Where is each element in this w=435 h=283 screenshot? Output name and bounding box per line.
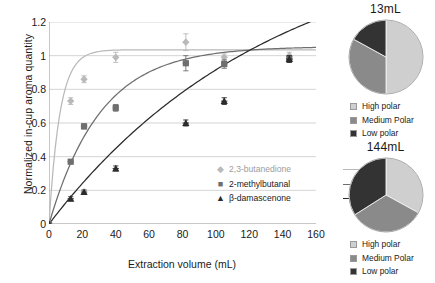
pie-legend-swatch	[350, 103, 357, 110]
x-tick-label: 0	[34, 228, 64, 240]
x-tick-label: 20	[67, 228, 97, 240]
pie-slices	[348, 158, 422, 232]
pie-chart	[348, 157, 424, 233]
plot-area: ◆2,3-butanedione■2-methylbutanal▲β-damas…	[49, 22, 316, 224]
pie-legend-item: Low polar	[350, 265, 435, 279]
pie-legend-label: Low polar	[362, 266, 398, 276]
legend-label: 2-methylbutanal	[226, 177, 290, 192]
pie-panel-13ml: 13mL High polarMedium PolarLow polar	[336, 0, 435, 141]
pie-legend-swatch	[350, 268, 357, 275]
pie-title: 13mL	[336, 0, 435, 17]
pie-legend-label: Medium Polar	[362, 115, 414, 125]
x-tick-label: 80	[168, 228, 198, 240]
y-tick-label: 0.8	[18, 84, 46, 94]
x-tick-label: 160	[301, 228, 331, 240]
x-tick-label: 120	[234, 228, 264, 240]
x-axis-label: Extraction volume (mL)	[48, 258, 316, 270]
pie-slices	[349, 20, 423, 94]
x-tick-label: 140	[268, 228, 298, 240]
pie-legend-item: High polar	[350, 100, 435, 114]
legend-label: β-damascenone	[226, 191, 291, 206]
y-tick-label: 1	[18, 51, 46, 61]
x-axis-ticks: 020406080100120140160	[0, 224, 332, 244]
pie-legend-item: High polar	[350, 238, 435, 252]
pie-legend-swatch	[350, 130, 357, 137]
pie-legend-label: High polar	[362, 239, 400, 249]
pie-title: 144mL	[336, 138, 435, 155]
legend-marker-icon: ◆	[215, 162, 226, 177]
y-tick-label: 0.2	[18, 185, 46, 195]
figure-container: Normalized in-cup aroma quantity 1.210.8…	[0, 0, 435, 283]
pie-svg	[348, 19, 424, 95]
y-tick-label: 1.2	[18, 17, 46, 27]
pie-panel-144ml: 144mL High polarMedium PolarLow polar	[336, 138, 435, 279]
x-tick-label: 40	[101, 228, 131, 240]
y-tick-label: 0.6	[18, 118, 46, 128]
pie-legend-swatch	[350, 255, 357, 262]
pie-svg	[348, 157, 424, 233]
x-tick-label: 60	[134, 228, 164, 240]
pie-legend-swatch	[350, 241, 357, 248]
pie-legend: High polarMedium PolarLow polar	[350, 238, 435, 279]
legend-marker-icon: ▲	[215, 191, 226, 206]
pie-legend-item: Medium Polar	[350, 252, 435, 266]
pie-legend-label: Low polar	[362, 128, 398, 138]
pie-legend-item: Medium Polar	[350, 114, 435, 128]
pie-chart	[348, 19, 424, 95]
pie-legend-label: High polar	[362, 101, 400, 111]
x-tick-label: 100	[201, 228, 231, 240]
pie-legend-label: Medium Polar	[362, 253, 414, 263]
y-tick-label: 0.4	[18, 152, 46, 162]
legend-label: 2,3-butanedione	[226, 162, 291, 177]
pie-legend: High polarMedium PolarLow polar	[350, 100, 435, 141]
legend-marker-icon: ■	[215, 177, 226, 192]
line-chart-panel: Normalized in-cup aroma quantity 1.210.8…	[0, 0, 332, 283]
pie-legend-swatch	[350, 117, 357, 124]
